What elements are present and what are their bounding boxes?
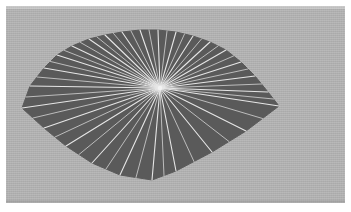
- apex-point: [158, 86, 162, 90]
- figure-root: [0, 0, 351, 212]
- triangulated-polygon-diagram: [6, 6, 345, 203]
- polygon-shape: [22, 30, 279, 180]
- figure-panel: [6, 6, 345, 203]
